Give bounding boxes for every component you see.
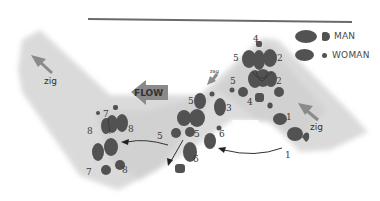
step-8-label: 8 [122,165,128,175]
band-notch [232,120,270,150]
legend-man-row: MAN [295,29,355,43]
step-4-label: 4 [247,97,253,107]
woman-heel-icon [322,53,327,58]
curved-arrow-1 [224,148,282,154]
legend-woman-row: WOMAN [295,48,370,62]
step-8-label: 8 [128,124,134,134]
zig-label-left: zig [44,76,57,86]
zag-label: zag [210,68,219,75]
curved-arrow-1-head [218,147,226,153]
step-7-label: 7 [86,167,92,177]
legend-woman-label: WOMAN [332,50,370,60]
man-heel-icon [322,32,330,41]
zig-label-right: zig [310,122,323,132]
woman-foot-icon [295,49,314,61]
step-5-label: 5 [230,76,236,86]
legend-man-label: MAN [334,31,355,41]
step-5-label: 5 [157,131,163,141]
step-3-label: 3 [226,103,232,113]
man-foot-icon [295,30,317,43]
legend: MAN WOMAN [295,28,380,68]
step-2-label: 2 [276,76,282,86]
step-1-label: 1 [286,112,292,122]
step-5-label: 5 [233,53,239,63]
step-2-label: 2 [277,53,283,63]
top-divider-line [88,19,352,22]
flow-label: FLOW [134,88,163,98]
step-1-label: 1 [285,150,291,160]
step-5-label: 5 [188,96,194,106]
step-4-label: 4 [253,34,259,44]
step-8-label: 8 [87,126,93,136]
step-7-label: 7 [103,109,109,119]
step-5-label: 5 [194,129,200,139]
step-6-label: 6 [219,129,225,139]
step-6-label: 6 [193,154,199,164]
